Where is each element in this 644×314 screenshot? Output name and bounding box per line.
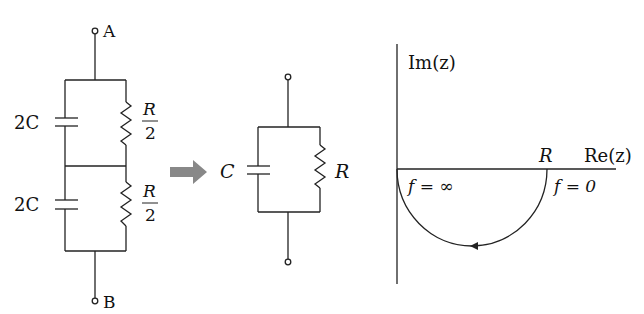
label-f-zero: f = 0	[552, 176, 596, 196]
label-res-upper-den: 2	[145, 123, 156, 143]
label-cap-upper: 2C	[14, 112, 39, 133]
label-res-middle: R	[334, 160, 349, 182]
label-point-r: R	[538, 145, 553, 166]
label-f-infinity: f = ∞	[406, 176, 454, 196]
middle-circuit	[247, 74, 325, 265]
resistor-upper	[121, 102, 131, 145]
label-res-lower-num: R	[142, 181, 156, 201]
left-circuit	[55, 28, 131, 304]
diagram-canvas: A B 2C 2C R 2 R 2 C R Im(z) Re(z) R f = …	[0, 0, 644, 314]
resistor-lower	[121, 182, 131, 226]
resistor-middle	[315, 145, 325, 188]
label-im-axis: Im(z)	[408, 52, 456, 73]
terminal-b	[92, 298, 98, 304]
direction-arrowhead-icon	[470, 242, 478, 250]
label-terminal-a: A	[102, 21, 116, 41]
transform-arrow-icon	[170, 160, 207, 184]
label-cap-lower: 2C	[14, 194, 39, 215]
label-terminal-b: B	[103, 292, 116, 312]
label-re-axis: Re(z)	[584, 145, 632, 166]
label-cap-middle: C	[220, 160, 235, 182]
label-res-upper-num: R	[142, 99, 156, 119]
label-res-lower-den: 2	[145, 205, 156, 225]
terminal-a	[92, 28, 98, 34]
